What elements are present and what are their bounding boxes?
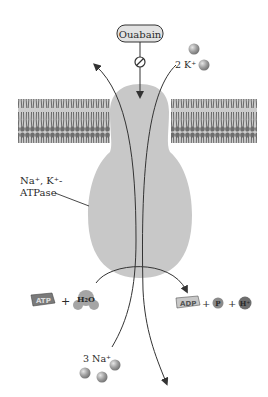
svg-text:H₂O: H₂O	[77, 294, 95, 304]
potassium-ions: 2 K⁺	[175, 44, 210, 71]
svg-text:Na⁺, K⁺-: Na⁺, K⁺-	[20, 175, 62, 186]
sodium-ions: 3 Na⁺	[80, 353, 121, 383]
ouabain-inhibitor: Ouabain	[117, 25, 163, 95]
lipid-bilayer-right	[171, 99, 257, 143]
svg-text:+: +	[202, 298, 210, 309]
ouabain-label: Ouabain	[119, 29, 162, 40]
proton-icon: H⁺	[239, 297, 252, 310]
inhibit-icon	[135, 57, 145, 67]
svg-text:H⁺: H⁺	[240, 299, 251, 308]
potassium-label: 2 K⁺	[175, 59, 196, 70]
na-k-atpase-diagram: Ouabain 2 K⁺ Na⁺, K⁺- ATPase ATP + H₂O	[0, 0, 268, 397]
svg-text:P: P	[215, 299, 221, 308]
enzyme-label: Na⁺, K⁺- ATPase	[19, 175, 89, 206]
svg-text:+: +	[61, 295, 70, 308]
sodium-label: 3 Na⁺	[83, 353, 111, 364]
reactants: ATP + H₂O	[31, 290, 99, 310]
atp-icon: ATP	[31, 293, 55, 306]
phosphate-icon: P	[213, 298, 224, 309]
products: ADP + P + H⁺	[176, 296, 252, 310]
water-molecule-icon: H₂O	[73, 290, 99, 310]
svg-text:ATPase: ATPase	[19, 187, 57, 198]
svg-text:+: +	[228, 298, 236, 309]
adp-icon: ADP	[176, 296, 200, 308]
lipid-bilayer-left	[18, 99, 110, 143]
svg-text:ATP: ATP	[36, 297, 51, 305]
svg-text:ADP: ADP	[180, 300, 196, 308]
